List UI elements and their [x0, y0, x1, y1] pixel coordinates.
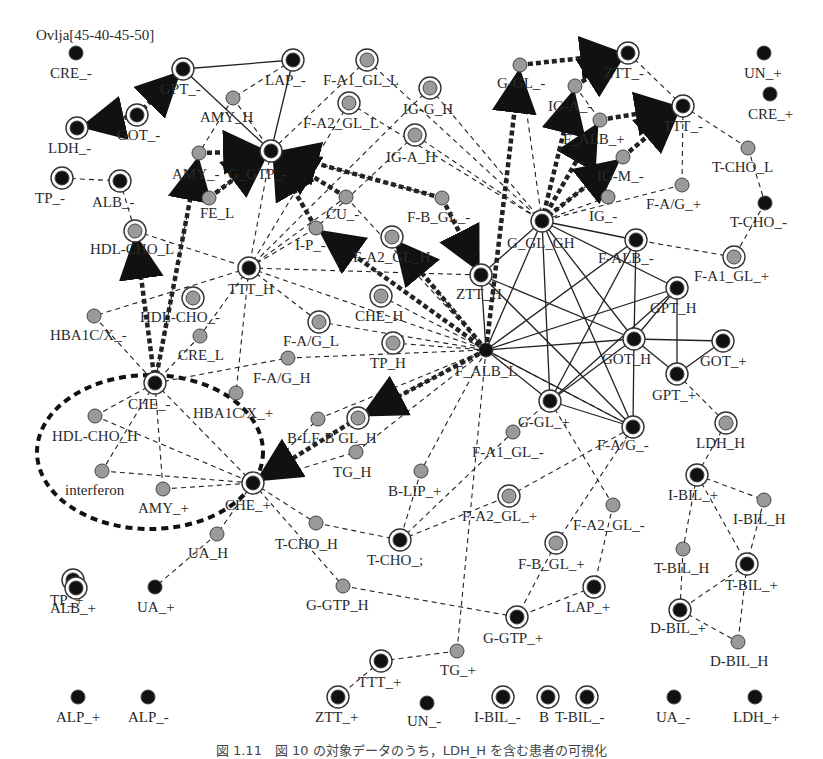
- gray-node-icon: [385, 230, 399, 244]
- graph-node[interactable]: AMY_-: [172, 146, 220, 182]
- graph-node[interactable]: T-CHO_H: [275, 516, 338, 552]
- graph-node[interactable]: ZTT_+: [315, 686, 358, 725]
- graph-node[interactable]: TTT_-: [663, 95, 703, 134]
- graph-node[interactable]: D-BIL_+: [650, 599, 706, 636]
- graph-node[interactable]: TP_-: [35, 167, 73, 206]
- graph-node[interactable]: F-A2_GL_+: [462, 485, 537, 524]
- graph-node[interactable]: GPT_+: [652, 363, 696, 403]
- graph-node[interactable]: F-A/G_+: [646, 178, 701, 212]
- black-node-icon: [763, 87, 777, 101]
- node-label: HBA1C/X_+: [193, 405, 273, 421]
- node-label: GPT_H: [650, 300, 697, 316]
- graph-node[interactable]: G-GTP_+: [483, 606, 543, 646]
- graph-node[interactable]: CRE_-: [50, 46, 92, 81]
- black-node-icon: [393, 533, 407, 547]
- graph-node[interactable]: IG-A_H: [386, 124, 436, 165]
- graph-node[interactable]: G_GL_GH: [507, 210, 575, 251]
- graph-node[interactable]: G-GTP_H: [306, 579, 369, 613]
- black-node-icon: [629, 233, 643, 247]
- graph-node[interactable]: TG_+: [440, 644, 476, 678]
- graph-node[interactable]: F-A2_GL_L: [303, 92, 379, 131]
- graph-node[interactable]: CHE_+: [225, 472, 271, 513]
- graph-node[interactable]: [347, 407, 369, 429]
- graph-node[interactable]: F-A/G_-: [597, 416, 649, 453]
- gray-node-icon: [95, 464, 109, 478]
- gray-node-icon: [186, 291, 200, 305]
- graph-node[interactable]: T-BIL_-: [555, 686, 604, 725]
- graph-node[interactable]: D-BIL_H: [710, 635, 768, 669]
- graph-node[interactable]: UA_H: [188, 527, 228, 561]
- graph-node[interactable]: TTT_+: [358, 650, 401, 690]
- black-node-icon: [479, 343, 493, 357]
- graph-node[interactable]: I-BIL_H: [733, 493, 786, 527]
- graph-node[interactable]: LAP_-: [265, 49, 306, 88]
- graph-node[interactable]: ALP_+: [56, 690, 100, 725]
- graph-node[interactable]: CRE_+: [748, 87, 793, 122]
- graph-node[interactable]: LDH_H: [696, 412, 745, 451]
- graph-node[interactable]: T-CHO_L: [712, 141, 773, 175]
- graph-node[interactable]: UA_-: [656, 690, 690, 725]
- node-label: F-ALB_-: [598, 250, 654, 266]
- node-label: F-A2_GL_-: [573, 517, 645, 533]
- graph-node[interactable]: T-BIL_+: [725, 553, 778, 593]
- graph-node[interactable]: AMY_+: [138, 482, 189, 516]
- graph-node[interactable]: IG-M_-: [597, 150, 644, 184]
- graph-node[interactable]: GOT_-: [117, 104, 160, 143]
- graph-node[interactable]: T-CHO_;: [367, 529, 423, 568]
- graph-node[interactable]: F-B_GL_+: [518, 532, 585, 572]
- graph-node[interactable]: I-BIL_+: [668, 464, 718, 503]
- graph-node[interactable]: ALB_-: [92, 170, 135, 210]
- graph-node[interactable]: I-BIL_-: [474, 686, 521, 725]
- graph-node[interactable]: T-BIL_H: [654, 542, 709, 576]
- graph-node[interactable]: CRE_L: [178, 329, 224, 363]
- graph-node[interactable]: F_ALB_+: [563, 113, 625, 147]
- graph-node[interactable]: IG-A_-: [548, 79, 592, 114]
- gray-node-icon: [616, 150, 630, 164]
- graph-node[interactable]: F-A1_GL_-: [472, 425, 544, 460]
- graph-node[interactable]: GPT_-: [160, 58, 201, 97]
- graph-node[interactable]: UN_-: [407, 696, 441, 729]
- gray-node-icon: [349, 445, 363, 459]
- graph-node[interactable]: T-CHO_-: [730, 196, 787, 230]
- gray-node-icon: [226, 91, 240, 105]
- graph-node[interactable]: LDH_-: [48, 117, 91, 156]
- graph-node[interactable]: TP_H: [370, 332, 406, 371]
- graph-node[interactable]: HBA1C/X_-: [50, 309, 127, 343]
- graph-node[interactable]: HDL-CHO_L: [90, 220, 174, 257]
- black-node-icon: [740, 557, 754, 571]
- graph-node[interactable]: F-A/G_H: [253, 351, 311, 386]
- graph-node[interactable]: FE_L: [200, 191, 234, 221]
- graph-node[interactable]: F-A2_GL_H: [353, 226, 431, 265]
- graph-node[interactable]: UA_+: [137, 580, 175, 615]
- graph-node[interactable]: IG_-: [589, 190, 617, 224]
- graph-node[interactable]: G-GL_+: [518, 390, 570, 430]
- gray-node-icon: [339, 190, 353, 204]
- graph-node[interactable]: CHE_H: [355, 285, 404, 324]
- graph-node[interactable]: F-A1_GL_L: [323, 49, 399, 88]
- black-node-icon: [676, 99, 690, 113]
- graph-node[interactable]: IG-G_H: [403, 77, 453, 117]
- graph-node[interactable]: HDL-CHO_-: [140, 287, 220, 325]
- graph-node[interactable]: CU_-: [326, 190, 359, 222]
- graph-node[interactable]: F-B_GL_-: [407, 191, 470, 225]
- graph-node[interactable]: GOT_+: [700, 330, 747, 369]
- graph-node[interactable]: LDH_+: [733, 690, 780, 725]
- graph-node[interactable]: interferon: [65, 464, 125, 498]
- graph-node[interactable]: UN_+: [744, 46, 782, 81]
- graph-node[interactable]: F-A/G_L: [283, 311, 339, 349]
- graph-node[interactable]: HDL-CHO_H: [52, 409, 138, 444]
- graph-node[interactable]: F-A2_GL_-: [573, 498, 645, 533]
- graph-node[interactable]: I-P_-: [295, 221, 326, 253]
- graph-node[interactable]: GPT_H: [650, 277, 697, 316]
- node-label: F_ALB_+: [563, 131, 625, 147]
- black-node-icon: [535, 214, 549, 228]
- graph-node[interactable]: TG_H: [333, 445, 371, 480]
- node-label: CHE_+: [225, 497, 271, 513]
- graph-node[interactable]: TTT_H: [228, 257, 274, 297]
- graph-node[interactable]: B-LIP_+: [388, 464, 441, 499]
- gray-node-icon: [450, 644, 464, 658]
- graph-node[interactable]: ZTT_-: [604, 42, 644, 81]
- graph-node[interactable]: HBA1C/X_+: [193, 386, 273, 421]
- node-label: G-GTP_H: [306, 597, 369, 613]
- graph-node[interactable]: ALP_-: [128, 690, 169, 725]
